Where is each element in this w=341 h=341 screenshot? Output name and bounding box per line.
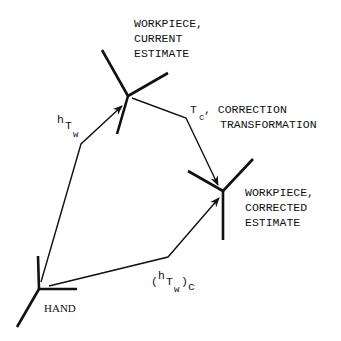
svg-text:T: T: [65, 119, 72, 132]
svg-text:(: (: [151, 275, 158, 288]
svg-text:c: c: [188, 280, 195, 293]
svg-text:ESTIMATE: ESTIMATE: [245, 216, 300, 229]
svg-text:, CORRECTION: , CORRECTION: [204, 103, 287, 116]
htw-arrow: [41, 106, 122, 282]
htw-c-arrow: [49, 198, 219, 286]
svg-text:w: w: [73, 130, 79, 140]
svg-text:WORKPIECE,: WORKPIECE,: [134, 17, 203, 30]
diagram-canvas: HAND WORKPIECE, CURRENT ESTIMATE WORKPIE…: [0, 0, 341, 341]
hand-frame-icon: [17, 256, 77, 327]
svg-text:T: T: [190, 103, 197, 116]
workpiece-corrected-frame-icon: [188, 159, 253, 240]
svg-text:CORRECTED: CORRECTED: [245, 201, 307, 214]
workpiece-current-frame-icon: [102, 50, 168, 134]
workpiece-corrected-label: WORKPIECE, CORRECTED ESTIMATE: [245, 186, 314, 229]
htw-c-label: ( h T w ) c: [151, 269, 195, 295]
svg-text:w: w: [174, 285, 180, 295]
svg-text:T: T: [166, 275, 173, 288]
tc-label: T c , CORRECTION TRANSFORMATION: [190, 103, 317, 131]
svg-text:h: h: [57, 113, 64, 126]
svg-text:h: h: [158, 269, 165, 282]
svg-text:): ): [181, 275, 188, 288]
svg-text:ESTIMATE: ESTIMATE: [134, 47, 189, 60]
svg-text:TRANSFORMATION: TRANSFORMATION: [220, 118, 317, 131]
htw-label: h T w: [57, 113, 79, 140]
workpiece-current-label: WORKPIECE, CURRENT ESTIMATE: [134, 17, 203, 60]
hand-label: HAND: [44, 302, 76, 314]
svg-text:WORKPIECE,: WORKPIECE,: [245, 186, 314, 199]
svg-text:CURRENT: CURRENT: [134, 32, 182, 45]
